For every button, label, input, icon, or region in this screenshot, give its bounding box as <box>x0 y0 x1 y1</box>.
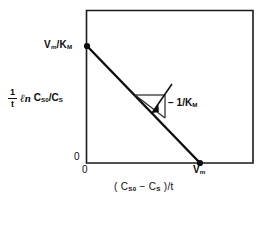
x-axis-title: ( CS0 − CS )/t <box>114 182 174 192</box>
y-intercept-label: Vm/KM <box>44 40 72 50</box>
slope-triangle <box>135 95 165 118</box>
one-over-t-fraction: 1 t <box>8 88 17 109</box>
x-axis-origin-label: 0 <box>82 165 88 175</box>
y-intercept-marker <box>84 43 90 49</box>
y-axis-origin-label: 0 <box>74 152 80 162</box>
y-axis-title: 1 t ℓn CS0/CS <box>8 88 63 109</box>
y-axis-title-argument: CS0/CS <box>34 93 63 103</box>
x-intercept-label: Vm <box>193 165 205 175</box>
fraction-denominator: t <box>10 100 15 109</box>
slope-annotation-label: − 1/KM <box>168 98 197 108</box>
fraction-numerator: 1 <box>9 88 16 97</box>
natural-log-operator: ℓn <box>20 93 31 104</box>
